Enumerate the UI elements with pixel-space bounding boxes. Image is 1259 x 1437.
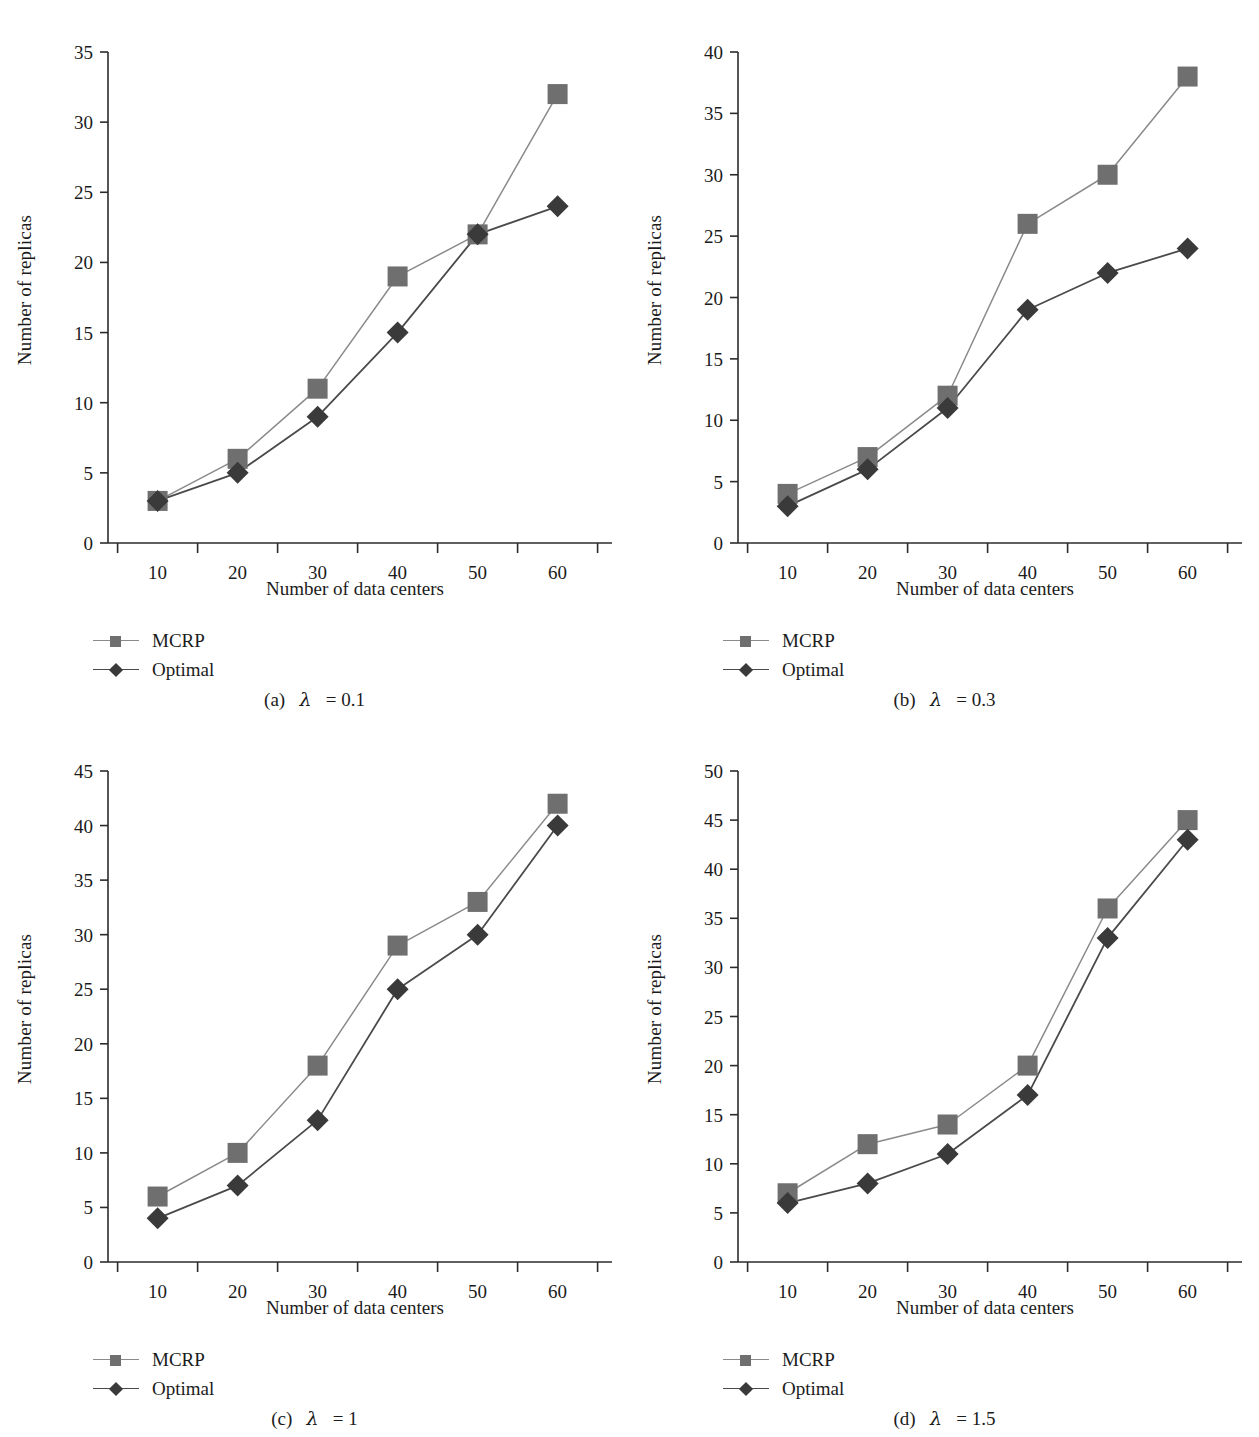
series-line-optimal (788, 248, 1188, 506)
data-point-marker-square (548, 84, 568, 104)
legend-marker-diamond-icon (723, 1380, 769, 1398)
chart-panel-a: 05101520253035102030405060 Number of rep… (0, 0, 629, 718)
y-axis-tick-label: 25 (74, 182, 93, 203)
legend-marker-square-icon (723, 632, 769, 650)
y-axis-tick-label: 0 (84, 533, 94, 554)
legend-a: MCRP Optimal (93, 626, 214, 684)
y-axis-tick-label: 5 (84, 463, 94, 484)
series-line-mcrp (788, 77, 1188, 494)
y-axis-tick-label: 35 (74, 870, 93, 891)
caption-value-a: = 0.1 (326, 689, 365, 710)
legend-label-optimal-a: Optimal (152, 659, 214, 681)
data-point-marker-square (1098, 165, 1118, 185)
legend-marker-square-icon (93, 632, 139, 650)
legend-marker-diamond-icon (93, 661, 139, 679)
panel-caption-b: (b) λ = 0.3 (630, 688, 1259, 711)
legend-item-optimal-b: Optimal (723, 655, 844, 684)
data-point-marker-square (308, 1056, 328, 1076)
y-axis-tick-label: 15 (74, 1088, 93, 1109)
chart-panel-b: 0510152025303540102030405060 Number of r… (630, 0, 1259, 718)
data-point-marker-diamond (147, 1207, 169, 1229)
data-point-marker-diamond (227, 1175, 249, 1197)
caption-value-d: = 1.5 (956, 1408, 995, 1429)
y-axis-tick-label: 30 (74, 112, 93, 133)
data-point-marker-square (468, 892, 488, 912)
y-axis-tick-label: 35 (704, 103, 723, 124)
plot-area-c: 051015202530354045102030405060 (0, 719, 629, 1319)
legend-item-optimal-c: Optimal (93, 1374, 214, 1403)
y-axis-tick-label: 5 (84, 1197, 94, 1218)
y-axis-tick-label: 35 (74, 42, 93, 63)
series-line-mcrp (158, 804, 558, 1197)
legend-label-mcrp-a: MCRP (152, 630, 205, 652)
x-axis-label-d: Number of data centers (725, 1297, 1245, 1319)
plot-area-d: 05101520253035404550102030405060 (630, 719, 1259, 1319)
plot-svg-c: 051015202530354045102030405060 (0, 719, 629, 1319)
y-axis-tick-label: 0 (714, 533, 724, 554)
caption-prefix-c: (c) (271, 1408, 292, 1429)
data-point-marker-square (148, 1187, 168, 1207)
panel-caption-c: (c) λ = 1 (0, 1407, 629, 1430)
y-axis-tick-label: 20 (74, 1034, 93, 1055)
legend-item-optimal-d: Optimal (723, 1374, 844, 1403)
data-point-marker-diamond (547, 815, 569, 837)
plot-area-a: 05101520253035102030405060 (0, 0, 629, 600)
legend-marker-diamond-icon (93, 1380, 139, 1398)
data-point-marker-diamond (1177, 829, 1199, 851)
chart-panel-c: 051015202530354045102030405060 Number of… (0, 719, 629, 1437)
caption-value-b: = 0.3 (956, 689, 995, 710)
y-axis-tick-label: 25 (74, 979, 93, 1000)
legend-label-mcrp-b: MCRP (782, 630, 835, 652)
y-axis-tick-label: 35 (704, 908, 723, 929)
y-axis-tick-label: 30 (74, 925, 93, 946)
series-line-optimal (788, 840, 1188, 1203)
caption-lambda-c: λ (307, 1407, 319, 1429)
x-axis-label-a: Number of data centers (95, 578, 615, 600)
y-axis-tick-label: 30 (704, 957, 723, 978)
data-point-marker-diamond (1017, 299, 1039, 321)
legend-item-mcrp-a: MCRP (93, 626, 214, 655)
caption-lambda-a: λ (299, 688, 311, 710)
legend-label-optimal-c: Optimal (152, 1378, 214, 1400)
legend-c: MCRP Optimal (93, 1345, 214, 1403)
plot-svg-b: 0510152025303540102030405060 (630, 0, 1259, 600)
legend-marker-diamond-icon (723, 661, 769, 679)
legend-item-optimal-a: Optimal (93, 655, 214, 684)
y-axis-tick-label: 45 (704, 810, 723, 831)
y-axis-tick-label: 10 (74, 393, 93, 414)
legend-b: MCRP Optimal (723, 626, 844, 684)
legend-label-optimal-b: Optimal (782, 659, 844, 681)
data-point-marker-square (1018, 1056, 1038, 1076)
y-axis-tick-label: 10 (704, 410, 723, 431)
data-point-marker-square (858, 1134, 878, 1154)
legend-label-mcrp-d: MCRP (782, 1349, 835, 1371)
series-line-optimal (158, 826, 558, 1219)
y-axis-tick-label: 0 (714, 1252, 724, 1273)
y-axis-tick-label: 30 (704, 165, 723, 186)
y-axis-tick-label: 20 (704, 288, 723, 309)
plot-area-b: 0510152025303540102030405060 (630, 0, 1259, 600)
data-point-marker-diamond (1177, 237, 1199, 259)
caption-prefix-a: (a) (264, 689, 285, 710)
y-axis-tick-label: 25 (704, 226, 723, 247)
series-line-mcrp (788, 820, 1188, 1193)
data-point-marker-square (1178, 810, 1198, 830)
y-axis-tick-label: 0 (84, 1252, 94, 1273)
data-point-marker-diamond (547, 195, 569, 217)
caption-prefix-d: (d) (894, 1408, 916, 1429)
legend-label-mcrp-c: MCRP (152, 1349, 205, 1371)
series-line-optimal (158, 206, 558, 501)
panel-caption-a: (a) λ = 0.1 (0, 688, 629, 711)
legend-label-optimal-d: Optimal (782, 1378, 844, 1400)
y-axis-tick-label: 25 (704, 1007, 723, 1028)
data-point-marker-square (1098, 898, 1118, 918)
data-point-marker-diamond (1097, 927, 1119, 949)
y-axis-tick-label: 50 (704, 761, 723, 782)
caption-lambda-d: λ (930, 1407, 942, 1429)
legend-marker-square-icon (93, 1351, 139, 1369)
legend-marker-square-icon (723, 1351, 769, 1369)
data-point-marker-diamond (467, 924, 489, 946)
y-axis-tick-label: 15 (74, 323, 93, 344)
data-point-marker-diamond (387, 978, 409, 1000)
data-point-marker-diamond (1097, 262, 1119, 284)
